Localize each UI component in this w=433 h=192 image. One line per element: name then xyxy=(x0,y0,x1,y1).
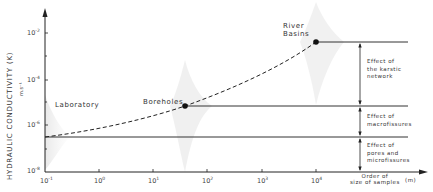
x-tick-label: 10-1 xyxy=(40,176,53,185)
river-basins-point xyxy=(313,39,319,45)
karstic-network-annotation: Effect of the karstic network xyxy=(367,58,402,81)
laboratory-label: Laboratory xyxy=(55,101,99,109)
y-axis-arrow-icon xyxy=(43,8,48,17)
river-basins-distribution xyxy=(300,2,344,105)
y-tick-label: 10-6 xyxy=(27,120,40,129)
boreholes-label: Boreholes xyxy=(143,98,183,106)
y-axis-unit-text: m.s⁻¹ xyxy=(18,82,24,96)
river-basins-label: River Basins xyxy=(283,22,309,38)
pores-microfissures-annotation: Effect of pores and microfissures xyxy=(367,142,410,165)
river-basins-label-line1: River xyxy=(283,22,309,30)
y-axis-label-text: HYDRAULIC CONDUCTIVITY (K) xyxy=(6,52,14,180)
y-tick-label: 10-4 xyxy=(27,75,40,84)
river-basins-label-line2: Basins xyxy=(283,30,309,38)
x-axis-label-line2: size of samples xyxy=(350,179,400,185)
x-tick-label: 101 xyxy=(148,176,159,185)
x-tick-label: 103 xyxy=(257,176,268,185)
x-tick-label: 102 xyxy=(202,176,213,185)
macrofissures-annotation: Effect of macrofissures xyxy=(367,113,412,128)
x-tick-label: 100 xyxy=(94,176,105,185)
y-tick-label: 10-8 xyxy=(27,166,40,175)
y-axis-label: HYDRAULIC CONDUCTIVITY (K) xyxy=(6,40,16,180)
x-tick-label: 104 xyxy=(311,176,322,185)
x-axis-arrow-icon xyxy=(419,170,428,175)
x-axis-label: Order of size of samples xyxy=(350,173,400,185)
y-axis-unit: m.s⁻¹ xyxy=(18,74,26,104)
x-axis-unit: (m) xyxy=(405,177,416,185)
boreholes-distribution xyxy=(170,60,212,172)
y-tick-label: 10-2 xyxy=(27,28,40,37)
